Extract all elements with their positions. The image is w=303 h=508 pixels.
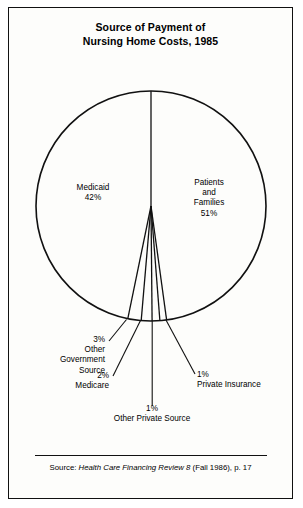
label-patients-percent: 51%	[164, 209, 254, 219]
label-other-private-source: 1% Other Private Source	[87, 404, 217, 424]
label-medicare-name: Medicare	[19, 381, 109, 391]
leader-private-insurance	[166, 320, 195, 374]
pie-chart	[9, 8, 294, 500]
source-publication: Health Care Financing Review 8	[79, 463, 191, 472]
leader-other-government	[109, 320, 127, 342]
label-patients-line-3: Families	[164, 198, 254, 208]
label-medicaid-percent: 42%	[50, 193, 136, 203]
label-other-government-percent: 3%	[17, 335, 105, 345]
source-note: Source: Health Care Financing Review 8 (…	[9, 463, 292, 473]
source-prefix: Source:	[50, 463, 79, 472]
label-other-government-line-1: Other	[17, 345, 105, 355]
label-patients-line-2: and	[164, 188, 254, 198]
source-divider	[35, 455, 267, 456]
label-private-insurance: 1% Private Insurance	[197, 370, 289, 390]
label-patients-and-families: Patients and Families 51%	[164, 178, 254, 219]
source-suffix: (Fall 1986), p. 17	[190, 463, 251, 472]
label-other-government-line-2: Government	[17, 355, 105, 365]
label-medicaid: Medicaid 42%	[50, 183, 136, 203]
slice-divider-other-government	[141, 206, 151, 321]
label-private-insurance-name: Private Insurance	[197, 380, 289, 390]
figure-frame: Source of Payment of Nursing Home Costs,…	[8, 7, 293, 499]
label-medicare-percent: 2%	[19, 371, 109, 381]
leader-medicare	[113, 321, 141, 377]
label-other-private-source-percent: 1%	[87, 404, 217, 414]
label-other-private-source-name: Other Private Source	[87, 414, 217, 424]
label-other-government-source: 3% Other Government Source	[17, 335, 105, 376]
label-medicare: 2% Medicare	[19, 371, 109, 391]
label-private-insurance-percent: 1%	[197, 370, 289, 380]
label-patients-line-1: Patients	[164, 178, 254, 188]
label-medicaid-name: Medicaid	[50, 183, 136, 193]
slice-divider-medicaid	[128, 206, 151, 319]
